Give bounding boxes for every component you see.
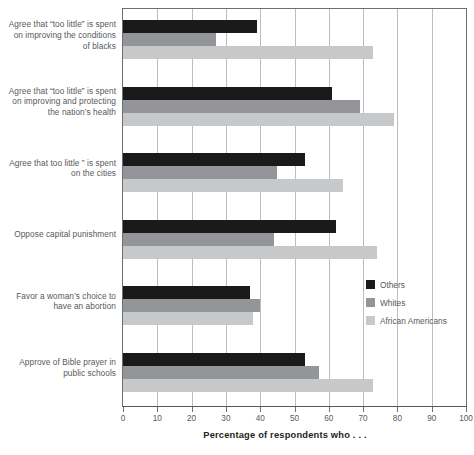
x-tick-mark (192, 407, 193, 412)
bar-others (123, 353, 305, 366)
x-tick-mark (363, 407, 364, 412)
category-label-line: on improving the conditions (0, 30, 116, 41)
bar-others (123, 286, 250, 299)
x-tick-label: 90 (427, 414, 436, 423)
bar-groups (123, 9, 466, 406)
x-tick-label: 10 (153, 414, 162, 423)
x-tick-label: 0 (121, 414, 126, 423)
bar-african-americans (123, 246, 377, 259)
bar-african-americans (123, 46, 373, 59)
bar-group (123, 76, 466, 143)
category-label-line: Agree that “too little” is spent (0, 86, 116, 97)
category-label-line: on improving and protecting (0, 96, 116, 107)
x-axis-title: Percentage of respondents who . . . (0, 430, 474, 440)
x-tick-label: 30 (221, 414, 230, 423)
x-tick-mark (157, 407, 158, 412)
category-label: Agree that “too little” is spenton impro… (0, 86, 116, 118)
legend-item[interactable]: African Americans (366, 312, 470, 329)
bar-african-americans (123, 179, 343, 192)
x-tick-label: 100 (459, 414, 473, 423)
legend-item[interactable]: Whites (366, 294, 470, 311)
bar-others (123, 220, 336, 233)
x-tick-mark (295, 407, 296, 412)
bar-chart: Agree that “too little” is spenton impro… (0, 0, 474, 455)
bar-whites (123, 33, 216, 46)
x-tick-label: 50 (290, 414, 299, 423)
bar-group (123, 142, 466, 209)
category-label-line: Approve of Bible prayer in (0, 357, 116, 368)
category-label-line: Oppose capital punishment (0, 229, 116, 240)
legend-swatch-icon (366, 298, 375, 307)
category-label-line: the nation’s health (0, 107, 116, 118)
bar-african-americans (123, 312, 253, 325)
category-label-line: public schools (0, 368, 116, 379)
category-axis-labels: Agree that “too little” is spenton impro… (0, 8, 116, 407)
category-label: Agree that too little ” is spenton the c… (0, 158, 116, 179)
category-label-line: Favor a woman’s choice to (0, 291, 116, 302)
category-label-line: Agree that “too little” is spent (0, 19, 116, 30)
x-tick-label: 20 (187, 414, 196, 423)
x-tick-mark (329, 407, 330, 412)
bar-whites (123, 166, 277, 179)
bar-african-americans (123, 113, 394, 126)
x-tick-label: 40 (256, 414, 265, 423)
x-tick-label: 70 (359, 414, 368, 423)
bar-whites (123, 299, 260, 312)
bar-whites (123, 100, 360, 113)
x-tick-mark (466, 407, 467, 412)
category-label-line: of blacks (0, 41, 116, 52)
bar-others (123, 87, 332, 100)
legend-label: African Americans (380, 316, 447, 326)
legend-swatch-icon (366, 280, 375, 289)
category-label-line: have an abortion (0, 301, 116, 312)
category-label: Approve of Bible prayer inpublic schools (0, 357, 116, 378)
category-label-line: Agree that too little ” is spent (0, 158, 116, 169)
x-tick-label: 80 (393, 414, 402, 423)
legend-swatch-icon (366, 316, 375, 325)
x-tick-mark (260, 407, 261, 412)
bar-whites (123, 366, 319, 379)
legend-item[interactable]: Others (366, 276, 470, 293)
x-tick-mark (123, 407, 124, 412)
category-label: Favor a woman’s choice tohave an abortio… (0, 291, 116, 312)
category-label: Agree that “too little” is spenton impro… (0, 19, 116, 51)
plot-area (122, 8, 467, 407)
bar-others (123, 153, 305, 166)
legend-label: Whites (380, 298, 405, 308)
x-axis: 0102030405060708090100 (122, 407, 467, 427)
x-tick-mark (397, 407, 398, 412)
bar-group (123, 9, 466, 76)
category-label: Oppose capital punishment (0, 229, 116, 240)
x-axis-title-text: Percentage of respondents who . . . (107, 430, 367, 440)
category-label-line: on the cities (0, 168, 116, 179)
x-tick-mark (432, 407, 433, 412)
chart-legend: OthersWhitesAfrican Americans (366, 276, 470, 330)
bar-whites (123, 233, 274, 246)
bar-group (123, 209, 466, 276)
x-tick-mark (226, 407, 227, 412)
x-tick-label: 60 (324, 414, 333, 423)
legend-label: Others (380, 280, 405, 290)
bar-african-americans (123, 379, 373, 392)
bar-group (123, 342, 466, 409)
bar-others (123, 20, 257, 33)
